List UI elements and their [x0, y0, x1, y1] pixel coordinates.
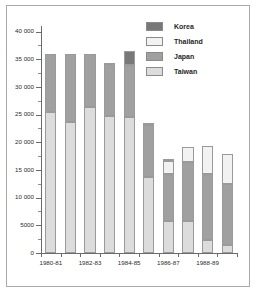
x-tick: [100, 253, 101, 257]
y-axis-tick-labels: 0500010 00015 00020 00025 00030 00035 00…: [0, 0, 34, 293]
legend-label: Japan: [174, 53, 194, 60]
legend-label: Taiwan: [174, 68, 197, 75]
y-tick-label: 30 000: [15, 84, 34, 90]
chart-figure: 0500010 00015 00020 00025 00030 00035 00…: [0, 0, 256, 293]
bar-stack[interactable]: [45, 26, 56, 253]
bar-segment[interactable]: [222, 184, 233, 245]
x-tick-label: 1980-81: [39, 259, 62, 266]
x-tick: [119, 253, 120, 257]
y-tick-label: 40 000: [15, 28, 34, 34]
bar-segment[interactable]: [222, 154, 233, 184]
x-tick-label: 1984-85: [118, 259, 141, 266]
legend-item[interactable]: Japan: [146, 49, 232, 64]
y-tick-label: 15 000: [15, 167, 34, 173]
bar-stack[interactable]: [104, 26, 115, 253]
legend-item[interactable]: Taiwan: [146, 64, 232, 79]
y-tick-label: 10 000: [15, 194, 34, 200]
bar-segment[interactable]: [65, 122, 76, 253]
bar-segment[interactable]: [182, 147, 193, 162]
x-tick: [198, 253, 199, 257]
x-tick: [237, 253, 238, 257]
bar-segment[interactable]: [104, 116, 115, 253]
legend-swatch: [146, 37, 163, 46]
bar-segment[interactable]: [143, 177, 154, 253]
bar-segment[interactable]: [124, 117, 135, 253]
chart-legend: KoreaThailandJapanTaiwan: [146, 19, 232, 79]
bar-segment[interactable]: [45, 112, 56, 253]
legend-label: Korea: [174, 23, 194, 30]
x-tick: [217, 253, 218, 257]
bar-segment[interactable]: [202, 240, 213, 253]
y-tick-label: 25 000: [15, 111, 34, 117]
legend-label: Thailand: [174, 38, 203, 45]
bar-stack[interactable]: [84, 26, 95, 253]
bar-segment[interactable]: [84, 54, 95, 108]
bar-segment[interactable]: [104, 63, 115, 65]
bar-segment[interactable]: [104, 64, 115, 116]
bar-segment[interactable]: [124, 51, 135, 65]
bar-segment[interactable]: [143, 123, 154, 125]
y-tick-label: 0: [31, 250, 34, 256]
bar-segment[interactable]: [65, 54, 76, 123]
bar-segment[interactable]: [182, 221, 193, 253]
bar-segment[interactable]: [202, 174, 213, 240]
x-tick-label: 1982-83: [79, 259, 102, 266]
y-tick-label: 35 000: [15, 56, 34, 62]
y-tick-label: 5000: [20, 222, 34, 228]
x-tick: [178, 253, 179, 257]
x-tick: [80, 253, 81, 257]
x-tick-label: 1986-87: [157, 259, 180, 266]
bar-segment[interactable]: [163, 159, 174, 161]
legend-item[interactable]: Thailand: [146, 34, 232, 49]
x-tick: [159, 253, 160, 257]
bar-stack[interactable]: [124, 26, 135, 253]
legend-swatch: [146, 22, 163, 31]
bar-segment[interactable]: [202, 146, 213, 174]
bar-segment[interactable]: [45, 54, 56, 113]
bar-segment[interactable]: [222, 245, 233, 253]
legend-swatch: [146, 67, 163, 76]
x-tick: [61, 253, 62, 257]
bar-stack[interactable]: [65, 26, 76, 253]
x-tick: [41, 253, 42, 257]
legend-item[interactable]: Korea: [146, 19, 232, 34]
bar-segment[interactable]: [163, 221, 174, 253]
bar-segment[interactable]: [163, 161, 174, 174]
x-tick-label: 1988-89: [196, 259, 219, 266]
bar-segment[interactable]: [84, 107, 95, 253]
x-tick: [139, 253, 140, 257]
bar-segment[interactable]: [124, 65, 135, 117]
bar-segment[interactable]: [182, 162, 193, 222]
y-tick-label: 20 000: [15, 139, 34, 145]
bar-segment[interactable]: [163, 174, 174, 221]
legend-swatch: [146, 52, 163, 61]
bar-segment[interactable]: [143, 125, 154, 177]
